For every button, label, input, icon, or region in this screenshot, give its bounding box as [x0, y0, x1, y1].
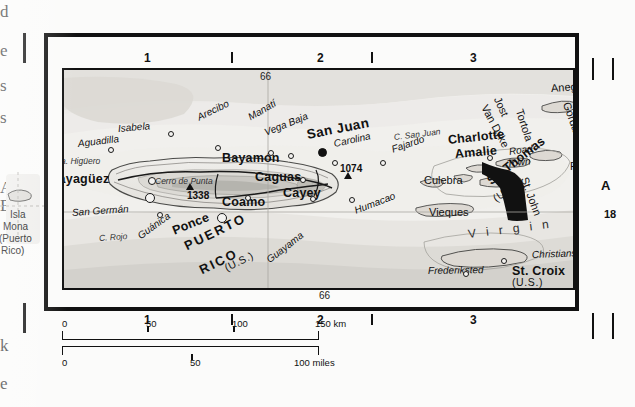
scale-miles-tick-50: 50	[190, 357, 201, 368]
grid-top-3: 3	[470, 51, 477, 65]
frame-left-rule	[44, 33, 48, 311]
left-tick-2	[23, 303, 26, 333]
peak-label-0: Cerro de Punta	[155, 177, 213, 186]
isla-mona-line4: Rico)	[1, 246, 24, 256]
map-neatline: 66 San JuanMayagüezBayamónCaguasCayeyCoa…	[62, 68, 575, 290]
cape-label-c-rojo: C. Rojo	[99, 232, 128, 242]
bleed-char-7: e	[0, 374, 20, 394]
right-tick-1	[592, 58, 594, 80]
sovereignty-label-2: (U.S.)	[512, 277, 543, 288]
frame-right-rule	[575, 33, 579, 311]
peak-marker-1074	[344, 172, 352, 179]
atlas-map-page: dessABke Isla Mona (Puerto Rico) 123 123…	[0, 0, 635, 407]
scale-miles-tick-0: 0	[62, 357, 67, 368]
grid-tick-0	[231, 52, 233, 63]
town-dot-humacao	[349, 197, 355, 203]
town-dot-fajardo	[380, 160, 386, 166]
grid-bottom-3: 3	[470, 313, 477, 327]
grid-tick-3	[371, 314, 373, 325]
town-dot-cayey	[310, 196, 316, 202]
island-label-anegada: Anegada	[551, 80, 575, 94]
right-tick-3	[592, 313, 594, 339]
town-label-christiansted: Christiansted	[532, 248, 575, 260]
scale-km-tick-0: 0	[62, 318, 67, 329]
town-dot-vega-baja	[288, 153, 294, 159]
right-tick-4	[612, 313, 614, 339]
bleed-char-0: d	[0, 2, 20, 22]
town-dot-christiansted	[501, 258, 507, 264]
left-tick-1	[23, 33, 26, 63]
town-label-frederiksted: Frederiksted	[428, 265, 484, 276]
scale-km-labels: 050100150 km	[62, 318, 319, 331]
grid-top-1: 1	[144, 51, 151, 65]
bleed-char-1: e	[0, 41, 20, 61]
isla-mona-line2: Mona	[3, 222, 28, 232]
isla-mona-inset: Isla Mona (Puerto Rico)	[0, 186, 44, 246]
grid-letter-a: A	[601, 178, 610, 193]
grid-number-18: 18	[604, 208, 616, 220]
peak-elevation-0: 1338	[187, 191, 209, 201]
island-label-vieques: Vieques	[429, 207, 469, 218]
capital-dot-san-juan	[318, 148, 327, 157]
frame-top-rule	[44, 33, 579, 37]
scale-miles-bar	[62, 346, 319, 355]
scale-km-tick-150: 150 km	[315, 318, 346, 329]
town-dot-manati	[268, 150, 274, 156]
cape-label-pta-hig-ero: Pta. Higüero	[62, 157, 100, 166]
city-label-caguas: Caguas	[255, 171, 301, 184]
island-label-culebra: Culebra	[424, 175, 463, 186]
town-dot-carolina	[332, 160, 338, 166]
island-label-peter-i-: Peter I.	[570, 161, 575, 172]
town-dot-frederiksted	[463, 271, 469, 277]
isla-mona-line1: Isla	[10, 210, 26, 220]
grid-tick-1	[371, 52, 373, 63]
city-dot-mayaguez	[145, 193, 155, 203]
meridian-66-bottom: 66	[319, 291, 330, 301]
grid-top-2: 2	[317, 51, 324, 65]
peak-marker-cerro-de-punta	[186, 183, 194, 190]
island-label-virgin: Virgin	[573, 95, 575, 125]
scale-miles-labels: 050100 miles	[62, 357, 319, 371]
scale-km-bar	[62, 331, 319, 340]
city-label-mayag-ez: Mayagüez	[62, 173, 109, 186]
town-dot-charlotte-amalie	[487, 155, 493, 161]
right-tick-2	[612, 58, 614, 80]
town-dot-isabela	[168, 131, 174, 137]
frame-bottom-rule	[44, 307, 579, 311]
town-dot-caguas	[300, 177, 306, 183]
town-dot-san-german	[157, 212, 163, 218]
city-dot-ponce	[217, 213, 227, 223]
town-dot-arecibo	[215, 145, 221, 151]
scale-miles-tick-100: 100 miles	[294, 357, 335, 368]
bleed-char-3: s	[0, 108, 20, 128]
town-dot-coamo	[245, 195, 251, 201]
isla-mona-line3: (Puerto	[0, 234, 32, 244]
scale-bars: 050100150 km 050100 miles	[62, 318, 319, 371]
town-dot-aguada	[148, 177, 156, 185]
town-dot-aguadilla	[108, 147, 114, 153]
bleed-char-2: s	[0, 76, 20, 96]
meridian-66-top: 66	[260, 72, 271, 82]
city-label-coamo: Coamo	[222, 196, 265, 209]
bleed-char-6: k	[0, 336, 20, 356]
